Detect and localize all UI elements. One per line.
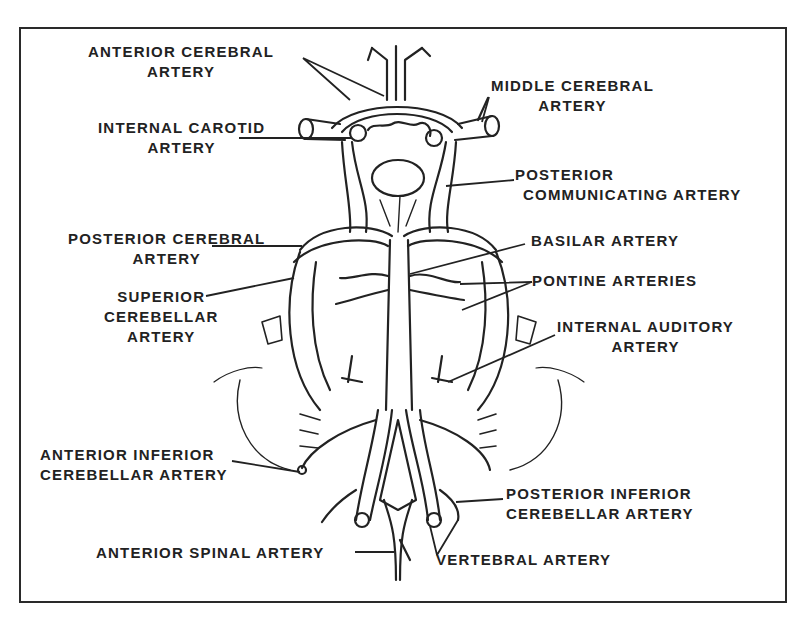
label-line: ARTERY [98,138,265,158]
pons-left [289,252,320,410]
label-anterior-inferior-cerebellar-artery: ANTERIOR INFERIOR CEREBELLAR ARTERY [40,445,228,485]
label-line: SUPERIOR [104,287,219,307]
pituitary [372,160,424,196]
leader-anterior-inferior-cerebellar [232,461,300,472]
label-line: ANTERIOR CEREBRAL [88,42,274,62]
label-line: ANTERIOR INFERIOR [40,445,228,465]
leader-pontine [460,282,532,310]
label-line: CEREBELLAR [104,307,219,327]
label-basilar-artery: BASILAR ARTERY [531,231,679,251]
label-line: ARTERY [491,96,654,116]
leader-posterior-communicating [446,180,514,186]
label-vertebral-artery: VERTEBRAL ARTERY [436,550,611,570]
label-posterior-cerebral-artery: POSTERIOR CEREBRAL ARTERY [68,229,265,269]
label-line: POSTERIOR CEREBRAL [68,229,265,249]
label-line: POSTERIOR INFERIOR [506,484,694,504]
label-line: ARTERY [104,327,219,347]
pons-right [478,252,508,410]
label-line: CEREBELLAR ARTERY [40,465,228,485]
label-anterior-spinal-artery: ANTERIOR SPINAL ARTERY [96,543,324,563]
anterior-spinal-artery [384,500,396,580]
leader-internal-auditory [448,335,555,382]
label-line: ANTERIOR SPINAL ARTERY [96,543,324,563]
label-line: INTERNAL AUDITORY [557,317,734,337]
leader-anterior-cerebral [303,58,384,100]
leader-basilar [410,244,525,274]
label-line: PONTINE ARTERIES [532,271,697,291]
label-line: BASILAR ARTERY [531,231,679,251]
label-posterior-inferior-cerebellar-artery: POSTERIOR INFERIOR CEREBELLAR ARTERY [506,484,694,524]
label-line: ARTERY [557,337,734,357]
label-anterior-cerebral-artery: ANTERIOR CEREBRAL ARTERY [88,42,274,82]
leader-posterior-inferior-cerebellar [456,499,503,502]
label-line: MIDDLE CEREBRAL [491,76,654,96]
label-posterior-communicating-artery: POSTERIOR COMMUNICATING ARTERY [515,165,741,205]
label-line: INTERNAL CAROTID [98,118,265,138]
label-line: ARTERY [68,249,265,269]
label-line: POSTERIOR [515,165,741,185]
label-line: VERTEBRAL ARTERY [436,550,611,570]
label-pontine-arteries: PONTINE ARTERIES [532,271,697,291]
leader-superior-cerebellar [206,278,294,296]
label-line: CEREBELLAR ARTERY [506,504,694,524]
label-line: ARTERY [88,62,274,82]
label-internal-carotid-artery: INTERNAL CAROTID ARTERY [98,118,265,158]
label-middle-cerebral-artery: MIDDLE CEREBRAL ARTERY [491,76,654,116]
label-internal-auditory-artery: INTERNAL AUDITORY ARTERY [557,317,734,357]
label-superior-cerebellar-artery: SUPERIOR CEREBELLAR ARTERY [104,287,219,347]
basilar-artery [386,240,390,410]
label-line: COMMUNICATING ARTERY [515,185,741,205]
